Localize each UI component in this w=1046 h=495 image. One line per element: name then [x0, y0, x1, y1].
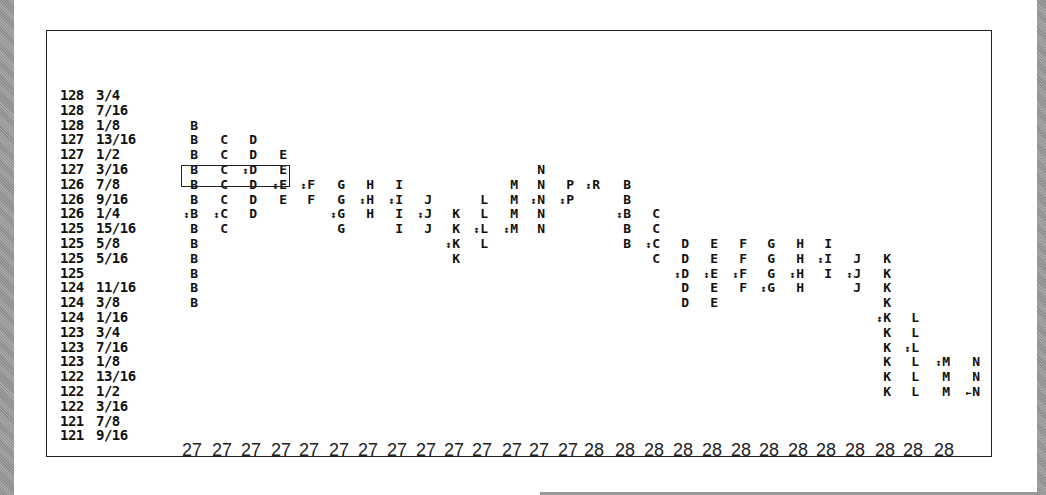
tpo-letter: H: [350, 206, 374, 221]
day-label: 28: [640, 440, 668, 461]
midpoint-marker-icon: ↕: [789, 269, 795, 280]
price-level-label: 1223/16: [60, 399, 128, 414]
price-level-label: 1237/16: [60, 340, 128, 355]
midpoint-marker-icon: ↕: [585, 180, 591, 191]
tpo-letter: ↕M: [926, 354, 950, 370]
day-label: 27: [354, 440, 382, 461]
tpo-letter: I: [379, 177, 403, 192]
tpo-letter: K: [867, 251, 891, 266]
tpo-letter: ↕H: [350, 192, 374, 208]
tpo-letter: L: [895, 384, 919, 399]
tpo-letter: ↕B: [607, 206, 631, 222]
tpo-letter: ↕J: [837, 266, 861, 282]
tpo-letter: J: [837, 280, 861, 295]
tpo-letter: K: [436, 251, 460, 266]
midpoint-marker-icon: ↕: [935, 357, 941, 368]
tpo-letter: N: [956, 369, 980, 384]
midpoint-marker-icon: ↕: [846, 269, 852, 280]
midpoint-marker-icon: ↕: [503, 224, 509, 235]
tpo-letter: ↕B: [174, 206, 198, 222]
tpo-letter: B: [607, 177, 631, 192]
day-label: 27: [237, 440, 265, 461]
day-label: 28: [727, 440, 755, 461]
tpo-letter: ←N: [956, 384, 980, 400]
day-label: 27: [295, 440, 323, 461]
midpoint-marker-icon: ↕: [417, 209, 423, 220]
price-level-label: 1273/16: [60, 162, 128, 177]
tpo-letter: L: [895, 354, 919, 369]
tpo-letter: B: [174, 236, 198, 251]
close-marker-icon: ←: [965, 387, 971, 398]
tpo-letter: G: [321, 221, 345, 236]
day-label: 27: [554, 440, 582, 461]
tpo-letter: D: [665, 251, 689, 266]
tpo-letter: I: [379, 206, 403, 221]
tpo-letter: D: [665, 280, 689, 295]
tpo-letter: I: [808, 236, 832, 251]
price-level-label: 1221/2: [60, 384, 120, 399]
tpo-letter: ↕L: [895, 340, 919, 356]
day-label: 27: [383, 440, 411, 461]
day-label: 27: [325, 440, 353, 461]
tpo-letter: B: [174, 251, 198, 266]
tpo-letter: B: [174, 295, 198, 310]
tpo-letter: K: [867, 280, 891, 295]
tpo-letter: B: [174, 147, 198, 162]
tpo-letter: J: [837, 251, 861, 266]
price-level-label: 1283/4: [60, 88, 120, 103]
day-label: 28: [669, 440, 697, 461]
tpo-letter: N: [521, 221, 545, 236]
price-level-label: 12515/16: [60, 221, 136, 236]
tpo-letter: K: [867, 340, 891, 355]
price-level-label: 1255/16: [60, 251, 128, 266]
tpo-letter: F: [723, 251, 747, 266]
midpoint-marker-icon: ↕: [876, 313, 882, 324]
tpo-letter: K: [867, 295, 891, 310]
price-level-label: 1217/8: [60, 414, 120, 429]
tpo-letter: J: [408, 221, 432, 236]
tpo-letter: ↕H: [780, 266, 804, 282]
tpo-letter: ↕I: [379, 192, 403, 208]
tpo-letter: M: [494, 192, 518, 207]
tpo-letter: ↕C: [636, 236, 660, 252]
day-label: 27: [267, 440, 295, 461]
day-label: 27: [208, 440, 236, 461]
tpo-letter: G: [751, 251, 775, 266]
day-label: 28: [580, 440, 608, 461]
tpo-letter: E: [694, 251, 718, 266]
day-label: 28: [899, 440, 927, 461]
tpo-letter: ↕C: [204, 206, 228, 222]
tpo-letter: K: [436, 206, 460, 221]
midpoint-marker-icon: ↕: [616, 209, 622, 220]
tpo-letter: M: [494, 177, 518, 192]
price-level-label: 125: [60, 266, 96, 281]
midpoint-marker-icon: ↕: [559, 195, 565, 206]
tpo-letter: K: [867, 325, 891, 340]
midpoint-marker-icon: ↕: [645, 239, 651, 250]
tpo-letter: D: [233, 206, 257, 221]
day-label: 28: [841, 440, 869, 461]
day-label: 27: [468, 440, 496, 461]
tpo-letter: E: [694, 236, 718, 251]
tpo-letter: P: [550, 177, 574, 192]
tpo-letter: B: [607, 236, 631, 251]
tpo-letter: K: [867, 266, 891, 281]
tpo-letter: F: [723, 280, 747, 295]
price-level-label: 1233/4: [60, 325, 120, 340]
price-level-label: 1219/16: [60, 428, 128, 443]
tpo-letter: ↕L: [464, 221, 488, 237]
day-label: 27: [412, 440, 440, 461]
day-label: 28: [812, 440, 840, 461]
price-level-label: 1261/4: [60, 206, 120, 221]
page-edge-right: [1037, 0, 1046, 495]
tpo-letter: N: [521, 206, 545, 221]
tpo-letter: ↕K: [436, 236, 460, 252]
tpo-letter: B: [174, 221, 198, 236]
tpo-letter: M: [926, 369, 950, 384]
price-level-label: 1267/8: [60, 177, 120, 192]
tpo-letter: M: [494, 206, 518, 221]
tpo-letter: D: [233, 132, 257, 147]
tpo-letter: B: [174, 266, 198, 281]
midpoint-marker-icon: ↕: [445, 239, 451, 250]
tpo-letter: L: [895, 369, 919, 384]
